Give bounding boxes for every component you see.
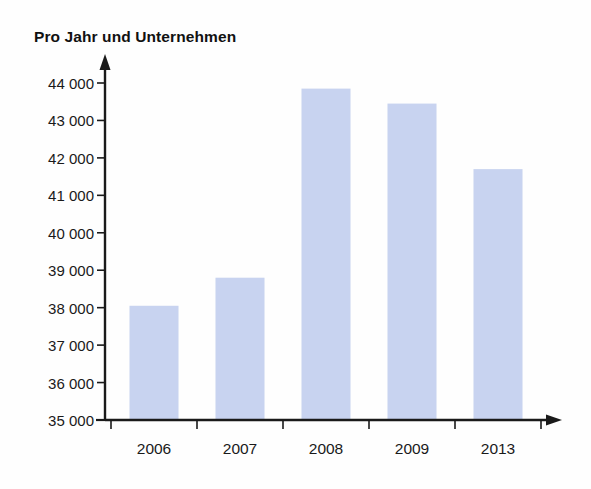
bar-chart-figure: Pro Jahr und Unternehmen 35 00036 00037 … xyxy=(0,0,591,489)
x-tick-label-2013: 2013 xyxy=(481,440,515,458)
bar-2008 xyxy=(302,89,351,420)
y-tick-label-41000: 41 000 xyxy=(20,187,94,204)
x-tick-label-2006: 2006 xyxy=(137,440,171,458)
y-tick-label-43000: 43 000 xyxy=(20,112,94,129)
x-tick-label-2008: 2008 xyxy=(309,440,343,458)
bar-2006 xyxy=(130,306,179,420)
y-axis-arrow-icon xyxy=(100,54,111,70)
y-tick-label-39000: 39 000 xyxy=(20,262,94,279)
x-tick-label-2007: 2007 xyxy=(223,440,257,458)
bar-2009 xyxy=(388,104,437,420)
plot-area: 35 00036 00037 00038 00039 00040 00041 0… xyxy=(0,0,591,489)
y-tick-label-36000: 36 000 xyxy=(20,374,94,391)
y-tick-label-42000: 42 000 xyxy=(20,149,94,166)
x-tick-label-2009: 2009 xyxy=(395,440,429,458)
y-tick-label-37000: 37 000 xyxy=(20,337,94,354)
y-tick-label-38000: 38 000 xyxy=(20,299,94,316)
bar-2007 xyxy=(216,278,265,420)
x-axis-arrow-icon xyxy=(546,415,562,426)
y-tick-label-35000: 35 000 xyxy=(20,412,94,429)
bar-2013 xyxy=(474,169,523,420)
y-tick-label-44000: 44 000 xyxy=(20,75,94,92)
bars-group xyxy=(130,89,523,420)
y-tick-label-40000: 40 000 xyxy=(20,224,94,241)
